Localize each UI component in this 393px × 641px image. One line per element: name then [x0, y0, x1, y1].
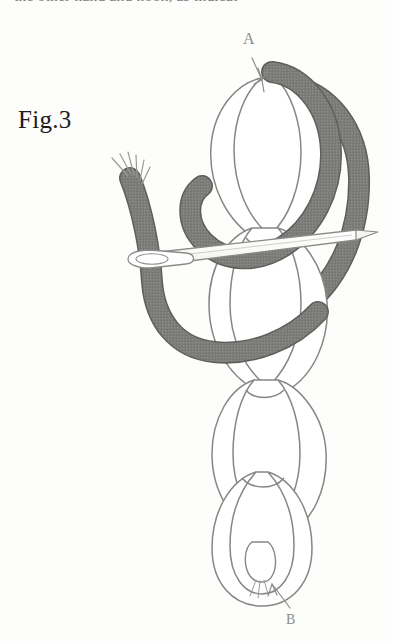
- label-point-a: A: [243, 30, 255, 48]
- label-point-b: B: [286, 612, 295, 628]
- figure-caption: Fig.3: [18, 106, 72, 134]
- figure-illustration: [0, 0, 393, 641]
- needle-point: [356, 230, 378, 240]
- needle-eye-icon: [128, 250, 194, 268]
